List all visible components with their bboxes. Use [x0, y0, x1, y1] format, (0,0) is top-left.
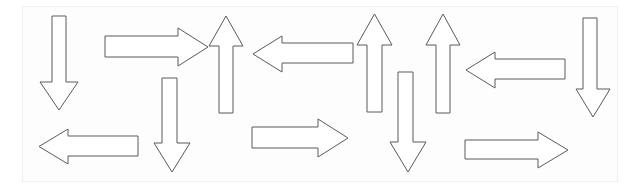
- right-arrow-1-icon: [105, 28, 208, 66]
- left-arrow-2-icon: [466, 52, 565, 88]
- left-arrow-3-icon: [39, 129, 138, 164]
- down-arrow-3-icon: [154, 78, 190, 172]
- right-arrow-2-icon: [252, 119, 348, 157]
- up-arrow-2-icon: [357, 14, 392, 112]
- left-arrow-1-icon: [253, 36, 353, 72]
- up-arrow-3-icon: [426, 14, 460, 113]
- down-arrow-4-icon: [390, 72, 426, 172]
- diagram-canvas: [0, 0, 642, 194]
- up-arrow-1-icon: [209, 16, 243, 113]
- arrow-layer: [0, 0, 642, 194]
- down-arrow-1-icon: [40, 16, 78, 110]
- right-arrow-3-icon: [465, 132, 568, 168]
- down-arrow-2-icon: [576, 18, 610, 117]
